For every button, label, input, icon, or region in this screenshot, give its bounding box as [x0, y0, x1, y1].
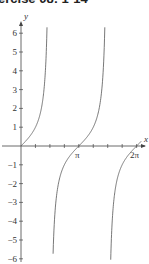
y-axis — [19, 21, 23, 262]
svg-text:6: 6 — [13, 28, 18, 38]
svg-text:2: 2 — [13, 103, 18, 113]
two-pi-label: 2π — [130, 150, 140, 160]
svg-text:−4: −4 — [7, 216, 17, 226]
svg-text:−3: −3 — [7, 197, 17, 207]
svg-text:−2: −2 — [7, 179, 17, 189]
x-axis-label: x — [143, 134, 148, 144]
svg-text:1: 1 — [13, 122, 18, 132]
svg-text:4: 4 — [13, 66, 18, 76]
x-axis — [2, 144, 146, 148]
tan-curve — [21, 27, 141, 259]
y-axis-label: y — [23, 11, 28, 21]
svg-text:−6: −6 — [7, 254, 17, 264]
svg-text:−1: −1 — [7, 160, 17, 170]
svg-text:5: 5 — [13, 47, 18, 57]
svg-text:−5: −5 — [7, 235, 17, 245]
tan-plot: −6−5−4−3−2−1123456 x y π 2π — [0, 0, 149, 264]
pi-label: π — [75, 150, 80, 160]
svg-text:3: 3 — [13, 85, 18, 95]
